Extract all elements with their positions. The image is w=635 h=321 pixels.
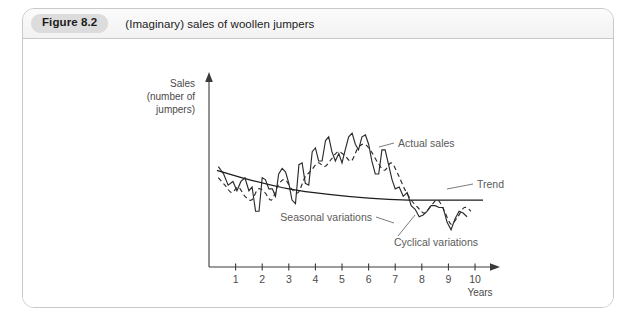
x-axis-tick-label: 3	[286, 273, 292, 285]
annotation-trend: Trend	[447, 178, 504, 190]
figure-plot-area: Sales (number of jumpers) 12345678910	[23, 39, 613, 308]
x-axis	[209, 263, 500, 271]
x-axis-tick-label: 2	[259, 273, 265, 285]
y-axis	[205, 72, 213, 267]
annotation-cyclical-variations-label: Cyclical variations	[394, 236, 478, 248]
annotation-seasonal-variations: Seasonal variations	[280, 211, 394, 223]
y-axis-label-line-1: Sales	[170, 78, 195, 89]
y-axis-label-line-3: jumpers)	[155, 104, 195, 115]
x-axis-tick-label: 7	[392, 273, 398, 285]
figure-card: Figure 8.2 (Imaginary) sales of woollen …	[22, 8, 614, 308]
x-axis-tick-label: 9	[446, 273, 452, 285]
x-axis-tick-label: 1	[233, 273, 239, 285]
sales-time-series-chart: Sales (number of jumpers) 12345678910	[23, 39, 614, 308]
annotation-cyclical-variations: Cyclical variations	[394, 215, 478, 248]
x-axis-tick-label: 10	[469, 273, 481, 285]
annotation-actual-sales-label: Actual sales	[398, 137, 455, 149]
y-axis-label-line-2: (number of	[147, 91, 196, 102]
series-trend-line	[217, 170, 483, 200]
x-axis-label: Years	[467, 287, 492, 298]
figure-number-badge: Figure 8.2	[31, 14, 108, 33]
annotation-actual-sales: Actual sales	[379, 137, 455, 149]
x-axis-tick-label: 4	[312, 273, 318, 285]
figure-header: Figure 8.2 (Imaginary) sales of woollen …	[23, 9, 613, 39]
annotation-seasonal-variations-label: Seasonal variations	[280, 211, 372, 223]
x-axis-tick-label: 5	[339, 273, 345, 285]
annotation-trend-label: Trend	[477, 178, 504, 190]
x-axis-tick-label: 6	[366, 273, 372, 285]
figure-caption-title: (Imaginary) sales of woollen jumpers	[125, 18, 314, 30]
x-axis-tick-label: 8	[419, 273, 425, 285]
